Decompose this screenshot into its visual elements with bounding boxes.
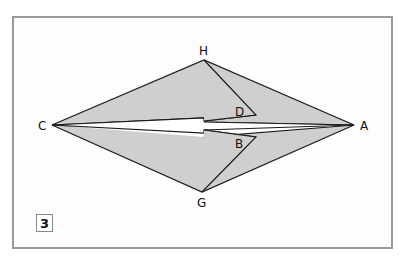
label-d: D <box>235 105 244 119</box>
label-a: A <box>360 119 369 133</box>
step-number-badge: 3 <box>36 214 53 232</box>
fold-diagram: H C A G D B <box>0 0 404 260</box>
upper-flap <box>52 60 354 125</box>
label-h: H <box>199 44 208 58</box>
label-c: C <box>38 119 46 133</box>
step-number: 3 <box>40 217 49 230</box>
label-b: B <box>235 137 243 151</box>
label-g: G <box>197 196 206 210</box>
